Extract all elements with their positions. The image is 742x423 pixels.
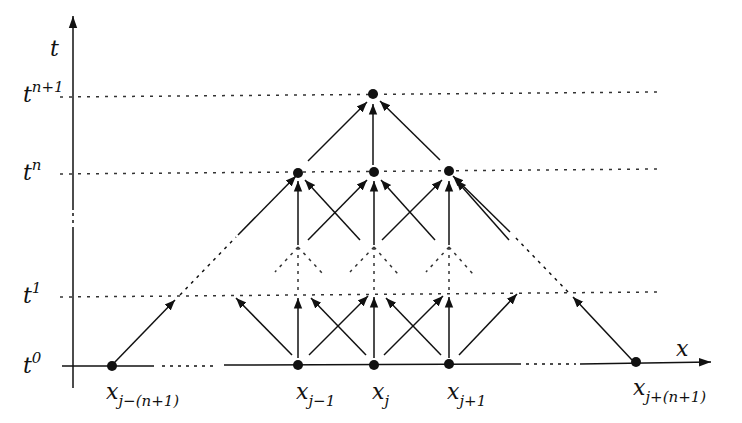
right-char-solid-low bbox=[573, 297, 632, 360]
right-char-dotted bbox=[513, 235, 568, 292]
right-char-solid-high bbox=[453, 176, 510, 232]
stencil-diagram bbox=[0, 0, 742, 423]
arrow-diag-jm1-j bbox=[308, 180, 367, 240]
time-level-label-tn1: tn+1 bbox=[23, 82, 64, 106]
node-bottom-far-left bbox=[107, 361, 117, 371]
upper-arrows bbox=[298, 180, 509, 245]
node-n-j bbox=[369, 167, 379, 177]
arrow-left-to-top bbox=[308, 102, 367, 161]
left-char-solid-low bbox=[114, 300, 175, 363]
top-arrows bbox=[308, 101, 440, 165]
time-level-label-tn: tn bbox=[23, 160, 42, 184]
node-label-jp1: xj+1 bbox=[447, 381, 486, 407]
arrow-diag-j-jp1 bbox=[382, 180, 442, 240]
arrow-diag-jp1-j bbox=[381, 180, 435, 240]
axes bbox=[62, 16, 711, 388]
node-bottom-jm1 bbox=[293, 360, 303, 370]
node-label-jm1: xj−1 bbox=[296, 381, 335, 407]
space-axis-label: x bbox=[676, 338, 688, 360]
level-line-t1 bbox=[60, 292, 657, 297]
arrow-b-jp1-right bbox=[459, 294, 517, 355]
arrow-diag-j-jm1 bbox=[305, 180, 360, 240]
node-n-jm1 bbox=[293, 168, 303, 178]
time-level-lines bbox=[60, 92, 657, 297]
arrow-right-to-top bbox=[380, 101, 440, 160]
intermediate-dotted bbox=[275, 247, 473, 292]
arrow-diag-right-jp1 bbox=[456, 180, 509, 240]
node-bottom-j bbox=[369, 360, 379, 370]
space-axis-right bbox=[580, 362, 711, 364]
level-line-tn1 bbox=[60, 92, 657, 97]
node-label-j: xj bbox=[372, 381, 389, 407]
time-axis-label: t bbox=[50, 38, 59, 60]
node-n-jp1 bbox=[444, 166, 454, 176]
node-label-far-right: xj+(n+1) bbox=[633, 377, 706, 403]
time-level-label-t0: t0 bbox=[23, 353, 41, 377]
outer-characteristics bbox=[114, 176, 632, 363]
left-char-dotted bbox=[180, 237, 236, 295]
node-top bbox=[368, 89, 378, 99]
bottom-arrows bbox=[236, 294, 517, 358]
arrow-b-jm1-left bbox=[236, 298, 292, 355]
time-level-label-t1: t1 bbox=[23, 283, 41, 307]
node-bottom-far-right bbox=[631, 357, 641, 367]
left-char-solid-high bbox=[238, 176, 296, 235]
node-bottom-jp1 bbox=[444, 359, 454, 369]
level-line-tn bbox=[60, 169, 657, 174]
node-label-far-left: xj−(n+1) bbox=[106, 381, 179, 407]
